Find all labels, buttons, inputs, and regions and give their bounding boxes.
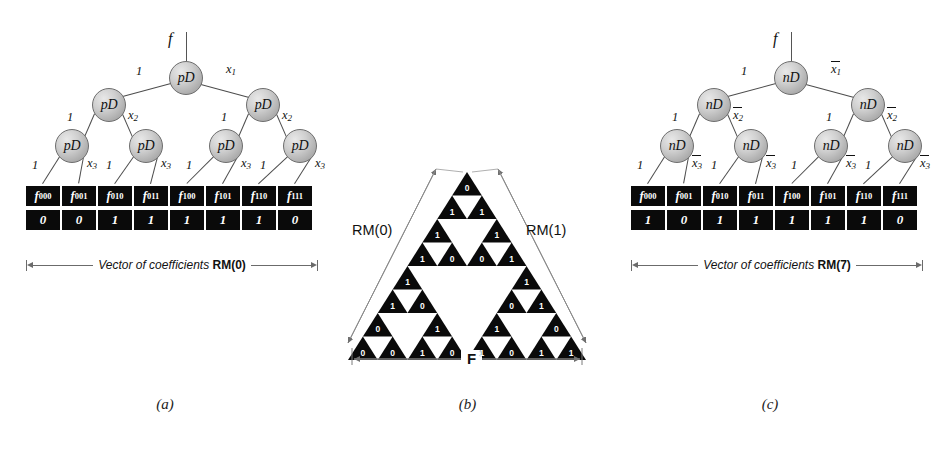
triangle-digit: 0 [465, 183, 470, 193]
edge-label-x1: x1 [226, 62, 236, 77]
triangle-digit: 0 [554, 324, 559, 334]
tree-node-nd[interactable]: nD [774, 61, 808, 95]
edge-label-1: 1 [106, 158, 112, 173]
leaf-value-cell: 1 [847, 210, 881, 230]
leaf-value-cell: 0 [26, 210, 60, 230]
caption-b: (b) [330, 396, 605, 413]
function-label-f: f [773, 30, 777, 48]
panel-b: 011111001111001011000101011 RM(0) RM(1) … [330, 0, 605, 458]
triangle-digit: 0 [509, 301, 514, 311]
leaf-value-cell: 1 [170, 210, 204, 230]
triangle-digit: 1 [569, 348, 574, 358]
edge-label-1: 1 [791, 158, 797, 173]
triangle-digit: 1 [509, 254, 514, 264]
edge-label-1-left: 1 [741, 64, 747, 79]
triangle-digit: 0 [361, 348, 366, 358]
caption-line-left [33, 265, 93, 266]
tree-node-pd[interactable]: pD [55, 129, 89, 163]
edge-label-x3: x3 [846, 156, 856, 171]
leaf-value-cell: 1 [703, 210, 737, 230]
triangle-digit: 1 [539, 301, 544, 311]
triangle-digit: 1 [480, 207, 485, 217]
leaf-value-cell: 1 [242, 210, 276, 230]
leaf-name-cell: f111 [883, 186, 917, 206]
leaf-name-row-c: f000f001f010f011f100f101f110f111 [631, 186, 919, 206]
rm1-label: RM(1) [526, 222, 566, 238]
edge-label-1: 1 [672, 110, 678, 125]
leaf-value-cell: 1 [98, 210, 132, 230]
triangle-digit: 0 [375, 324, 380, 334]
triangle-digit: 0 [480, 254, 485, 264]
leaf-value-cell: 1 [739, 210, 773, 230]
leaf-value-row-c: 10111110 [631, 210, 919, 230]
tree-edge [843, 114, 854, 137]
caption-a: (a) [0, 396, 330, 413]
vector-caption-text-a: Vector of coefficients RM(0) [93, 258, 251, 272]
triangle-digit: 1 [405, 277, 410, 287]
edge-label-1: 1 [865, 158, 871, 173]
edge-label-x3: x3 [920, 156, 930, 171]
leaf-name-cell: f010 [98, 186, 132, 206]
tree-node-pd[interactable]: pD [129, 129, 163, 163]
caption-tick-right [922, 260, 923, 271]
edge-label-x2: x2 [282, 108, 292, 123]
triangle-digit: 1 [435, 230, 440, 240]
leaf-name-cell: f010 [703, 186, 737, 206]
function-label-f: f [168, 30, 172, 48]
leaf-value-cell: 0 [667, 210, 701, 230]
leaf-name-cell: f100 [775, 186, 809, 206]
caption-line-left [638, 265, 698, 266]
edge-label-1: 1 [67, 110, 73, 125]
rm0-label: RM(0) [352, 222, 392, 238]
tree-node-nd[interactable]: nD [660, 129, 694, 163]
leaf-value-cell: 1 [631, 210, 665, 230]
leaf-value-cell: 1 [811, 210, 845, 230]
decision-tree-pd: f1x11x21x21x31x31x31x3pDpDpDpDpDpDpD [0, 0, 330, 300]
vector-caption-c: Vector of coefficients RM(7) [631, 258, 923, 272]
leaf-name-cell: f001 [667, 186, 701, 206]
tree-edge [123, 83, 171, 97]
tree-node-pd[interactable]: pD [283, 129, 317, 163]
tree-node-nd[interactable]: nD [814, 129, 848, 163]
tree-edge [42, 156, 60, 184]
root-stub [791, 32, 792, 61]
edge-label-1: 1 [221, 110, 227, 125]
triangle-digit: 0 [509, 348, 514, 358]
triangle-digit: 1 [420, 348, 425, 358]
leaf-value-cell: 1 [134, 210, 168, 230]
leaf-name-cell: f001 [62, 186, 96, 206]
tree-edge [238, 114, 249, 137]
edge-label-x3: x3 [766, 156, 776, 171]
tree-edge [647, 156, 665, 184]
caption-line-right [856, 265, 916, 266]
leaf-name-cell: f011 [134, 186, 168, 206]
leaf-value-cell: 0 [62, 210, 96, 230]
triangle-digit: 1 [435, 324, 440, 334]
tree-edge [84, 114, 95, 137]
edge-label-x3: x3 [161, 156, 171, 171]
triangle-digit: 0 [420, 301, 425, 311]
tree-node-nd[interactable]: nD [851, 88, 885, 122]
decision-tree-nd: f1x11x21x21x31x31x31x3nDnDnDnDnDnDnD [605, 0, 935, 300]
leaf-name-cell: f000 [26, 186, 60, 206]
tree-node-nd[interactable]: nD [888, 129, 922, 163]
leaf-name-cell: f011 [739, 186, 773, 206]
panel-a: f1x11x21x21x31x31x31x3pDpDpDpDpDpDpD f00… [0, 0, 330, 458]
triangle-digit: 1 [450, 207, 455, 217]
root-stub [186, 32, 187, 61]
edge-label-x3: x3 [241, 156, 251, 171]
tree-node-nd[interactable]: nD [697, 88, 731, 122]
triangle-digit: 0 [450, 348, 455, 358]
tree-node-pd[interactable]: pD [92, 88, 126, 122]
tree-node-pd[interactable]: pD [209, 129, 243, 163]
triangle-digit: 1 [420, 254, 425, 264]
tree-node-pd[interactable]: pD [169, 61, 203, 95]
tree-node-pd[interactable]: pD [246, 88, 280, 122]
tree-node-nd[interactable]: nD [734, 129, 768, 163]
leaf-name-cell: f111 [278, 186, 312, 206]
leaf-name-cell: f000 [631, 186, 665, 206]
tree-edge [728, 83, 776, 97]
leaf-name-cell: f110 [242, 186, 276, 206]
leaf-name-cell: f101 [206, 186, 240, 206]
edge-label-x3: x3 [315, 156, 325, 171]
